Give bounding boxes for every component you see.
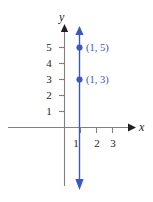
coordinate-plane [0, 0, 153, 202]
graph-figure: y x 5 4 3 2 1 1 2 3 (1, 5) (1, 3) [0, 0, 153, 202]
data-point-1-3 [76, 76, 82, 82]
data-point-1-5 [76, 44, 82, 50]
x-tick-label-1: 1 [71, 138, 81, 149]
y-tick-label-5: 5 [44, 42, 54, 53]
y-tick-label-2: 2 [44, 90, 54, 101]
y-axis-label: y [59, 11, 64, 23]
y-tick-label-3: 3 [44, 74, 54, 85]
y-axis-ticks [59, 48, 65, 112]
x-axis [8, 124, 136, 132]
point-annotation-1-5: (1, 5) [86, 43, 109, 54]
y-tick-label-1: 1 [44, 106, 54, 117]
point-annotation-1-3: (1, 3) [86, 75, 109, 86]
x-axis-label: x [139, 121, 144, 133]
x-tick-label-3: 3 [108, 138, 118, 149]
x-axis-ticks [81, 128, 113, 134]
x-tick-label-2: 2 [92, 138, 102, 149]
y-tick-label-4: 4 [44, 58, 54, 69]
y-axis [61, 24, 68, 186]
